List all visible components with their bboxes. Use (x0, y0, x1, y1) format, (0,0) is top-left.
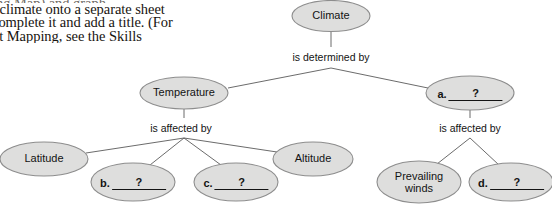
edge-junction-to-latitude (86, 138, 184, 153)
edge-junction-to-answer-d (470, 138, 499, 165)
blank-answer-a-question-mark: ? (449, 88, 503, 99)
edge-junction-to-answer-a (331, 68, 428, 88)
blank-answer-c-letter: c. (203, 178, 212, 190)
blank-answer-d-rule: ? (490, 176, 544, 190)
blank-answer-d[interactable]: d. ? (478, 176, 544, 190)
blank-answer-c-question-mark: ? (215, 177, 269, 188)
blank-answer-c[interactable]: c. ? (203, 176, 268, 190)
edge-label-is-determined-by: is determined by (292, 51, 369, 63)
node-climate[interactable] (292, 1, 370, 32)
blank-answer-b[interactable]: b. ? (100, 176, 166, 190)
edge-junction-to-altitude (184, 138, 277, 152)
node-temperature[interactable] (140, 77, 228, 109)
concept-map-page: ing Map) and graph... t climate onto a s… (0, 0, 552, 215)
node-altitude[interactable] (273, 142, 353, 176)
blank-answer-d-question-mark: ? (490, 177, 544, 188)
blank-answer-a-rule: ? (449, 87, 503, 101)
blank-answer-c-rule: ? (215, 176, 269, 190)
blank-answer-d-letter: d. (478, 178, 488, 190)
edge-label-is-affected-by-left: is affected by (150, 122, 212, 134)
concept-map-diagram (0, 0, 552, 215)
edge-label-is-affected-by-right: is affected by (439, 122, 501, 134)
edge-junction-to-prevailing-winds (437, 138, 470, 164)
blank-answer-a-letter: a. (437, 89, 446, 101)
node-latitude[interactable] (0, 142, 88, 176)
blank-answer-b-rule: ? (112, 176, 166, 190)
edge-junction-to-temperature (228, 68, 331, 88)
node-prevailing-winds[interactable] (377, 161, 461, 203)
edge-junction-to-answer-c (184, 138, 221, 165)
blank-answer-b-question-mark: ? (112, 177, 166, 188)
blank-answer-b-letter: b. (100, 178, 110, 190)
blank-answer-a[interactable]: a. ? (437, 87, 502, 101)
